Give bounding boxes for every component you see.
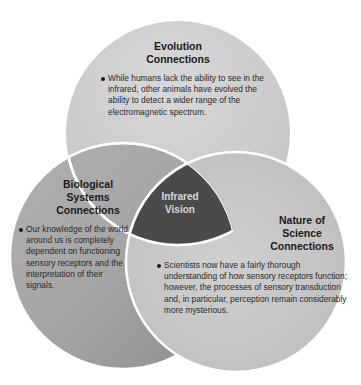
- nature-of-science-bullet: Scientists now have a fairly thorough un…: [156, 260, 348, 316]
- biological-bullet: Our knowledge of the world around us is …: [18, 224, 131, 291]
- evolution-bullet: While humans lack the ability to see in …: [100, 73, 278, 118]
- center-label: Infrared Vision: [150, 190, 210, 216]
- evolution-title: Evolution Connections: [128, 40, 228, 66]
- nature-of-science-title: Nature of Science Connections: [262, 214, 342, 253]
- biological-title: Biological Systems Connections: [48, 178, 128, 217]
